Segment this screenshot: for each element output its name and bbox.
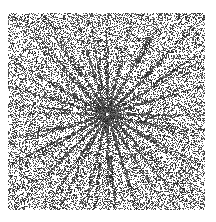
halftone-raster-canvas xyxy=(0,0,216,222)
radial-burst-figure: Scanned halftone print of a radial burst… xyxy=(0,0,216,222)
